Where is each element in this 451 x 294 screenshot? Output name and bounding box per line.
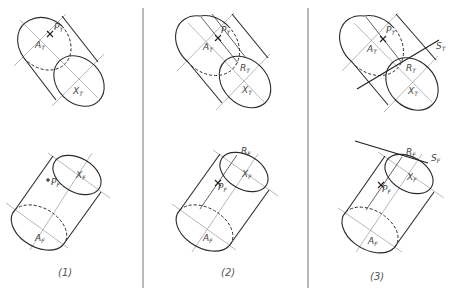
far-end-ellipse (44, 46, 115, 117)
cylinder-limb (24, 58, 56, 100)
label-r-front: RF (241, 146, 251, 157)
bottom-end-outline (11, 210, 63, 250)
cylinder-limb (229, 190, 269, 246)
panel-1-front-view: PF XF AF (6, 147, 110, 250)
label-a-front: AF (367, 236, 378, 247)
bottom-end-outline (342, 212, 394, 253)
near-end-outline (340, 16, 364, 62)
panel-3-caption: (3) (370, 271, 384, 282)
panel-1: PT AT XT PF XF AF (1) (6, 14, 114, 278)
label-p-top: PT (386, 25, 396, 36)
label-p-front: PF (51, 177, 60, 188)
end-centerline (52, 54, 104, 106)
panel-3: PT AT RT XT ST RF SF PF XF AF (3) (338, 13, 449, 282)
cylinder-limb (63, 192, 101, 245)
point-p-front-mark (46, 178, 50, 182)
cylinder-limb (15, 156, 53, 210)
label-r-front: RF (406, 147, 416, 158)
label-p-top: PT (54, 22, 64, 33)
near-end-hidden-edge (352, 28, 404, 76)
panel-3-top-view: PT AT RT XT ST (340, 13, 449, 121)
axis-centerline (356, 154, 422, 252)
label-x-front: XF (75, 170, 86, 181)
label-x-front: XF (241, 169, 252, 180)
label-a-front: AF (202, 233, 213, 244)
point-p-top-mark (215, 35, 221, 41)
panel-3-front-view: RF SF PF XF AF (338, 141, 444, 253)
label-a-top: AT (202, 42, 214, 53)
label-x-top: XT (241, 85, 253, 96)
label-a-front: AF (34, 233, 45, 244)
label-r-top: RT (406, 63, 417, 74)
end-centerline (172, 204, 236, 250)
cylinder-limb (62, 16, 98, 62)
panel-2: PT AT RT XT RF PF XF AF (2) (172, 13, 281, 278)
cylinder-limb (180, 154, 220, 210)
cylinder-limb (188, 62, 222, 103)
label-a-top: AT (34, 40, 46, 51)
near-end-outline (176, 16, 200, 62)
panel-1-caption: (1) (58, 267, 72, 278)
label-s-top: ST (436, 41, 447, 52)
tangent-plane-edge-s-front (355, 141, 428, 163)
cylinder-limb (396, 14, 436, 60)
cylinder-limb (346, 156, 385, 212)
label-p-front: PF (218, 182, 227, 193)
cylinder-limb (394, 192, 434, 248)
bottom-end-outline (176, 210, 229, 251)
panel-1-top-view: PT AT XT (14, 14, 114, 116)
label-p-top: PT (221, 25, 231, 36)
cylinder-tangent-plane-diagram: PT AT XT PF XF AF (1) (0, 0, 451, 294)
panel-2-top-view: PT AT RT XT (176, 13, 281, 118)
panel-2-caption: (2) (221, 267, 235, 278)
panel-2-front-view: RF PF XF AF (172, 144, 278, 252)
label-x-front: XF (406, 172, 417, 183)
point-p-top-mark (380, 36, 386, 42)
label-r-top: RT (240, 63, 251, 74)
label-s-front: SF (431, 153, 441, 164)
cylinder-limb (232, 14, 268, 58)
label-p-front: PF (382, 184, 391, 195)
cylinder-limb (352, 62, 388, 105)
point-p-top-mark (47, 31, 53, 37)
label-x-top: XT (72, 86, 84, 97)
